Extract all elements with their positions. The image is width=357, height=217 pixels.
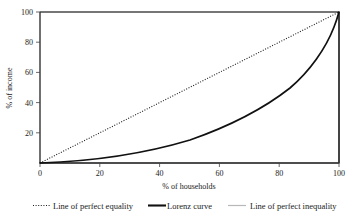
legend-item-perfect-inequality: Line of perfect inequality (228, 201, 337, 211)
legend-label-lorenz-curve: Lorenz curve (167, 201, 212, 211)
lorenz-curve-chart: 100 80 60 40 20 0 20 40 60 80 100 % of h… (0, 0, 357, 217)
y-tick-label-60: 60 (25, 68, 33, 77)
x-tick-label-60: 60 (215, 169, 223, 178)
y-tick-label-20: 20 (25, 129, 33, 138)
legend-label-perfect-equality: Line of perfect equality (53, 201, 134, 211)
x-tick-label-80: 80 (275, 169, 283, 178)
chart-canvas: 100 80 60 40 20 0 20 40 60 80 100 % of h… (0, 0, 357, 217)
y-tick-label-80: 80 (25, 38, 33, 47)
x-tick-label-40: 40 (156, 169, 164, 178)
legend-item-lorenz-curve: Lorenz curve (148, 201, 212, 211)
legend: Line of perfect equality Lorenz curve Li… (33, 201, 337, 211)
y-axis-title: % of income (5, 67, 14, 108)
legend-item-perfect-equality: Line of perfect equality (33, 201, 134, 211)
x-axis-title: % of households (162, 182, 215, 191)
legend-label-perfect-inequality: Line of perfect inequality (250, 201, 337, 211)
x-tick-label-20: 20 (96, 169, 104, 178)
y-tick-label-100: 100 (21, 8, 33, 17)
x-tick-label-100: 100 (333, 169, 345, 178)
x-tick-label-0: 0 (38, 169, 42, 178)
y-tick-label-40: 40 (25, 99, 33, 108)
